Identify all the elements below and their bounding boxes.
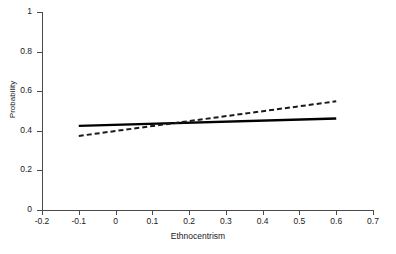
x-tick-label: 0	[96, 216, 136, 226]
y-tick-label: 0	[0, 205, 32, 214]
x-axis-line	[42, 210, 374, 211]
y-tick-label: 1	[0, 7, 32, 16]
x-tick-mark	[373, 211, 374, 215]
series-solid-line	[79, 119, 336, 126]
x-tick-mark	[79, 211, 80, 215]
x-tick-mark	[152, 211, 153, 215]
x-tick-label: 0.4	[243, 216, 283, 226]
x-tick-label: -0.1	[59, 216, 99, 226]
chart-figure: 00.20.40.60.81 -0.2-0.100.10.20.30.40.50…	[0, 0, 396, 254]
x-tick-mark	[116, 211, 117, 215]
x-tick-mark	[42, 211, 43, 215]
y-tick-mark	[37, 170, 42, 171]
x-tick-mark	[189, 211, 190, 215]
x-tick-label: 0.6	[316, 216, 356, 226]
x-tick-mark	[226, 211, 227, 215]
x-tick-label: -0.2	[22, 216, 62, 226]
y-axis-line	[42, 12, 43, 211]
x-tick-label: 0.7	[353, 216, 393, 226]
x-tick-label: 0.1	[132, 216, 172, 226]
y-axis-title: Probability	[8, 60, 17, 140]
y-tick-mark	[37, 91, 42, 92]
x-axis-title: Ethnocentrism	[0, 231, 396, 241]
series-dashed-line	[79, 101, 336, 136]
y-tick-mark	[37, 12, 42, 13]
y-tick-label: 0.2	[0, 165, 32, 174]
x-tick-mark	[263, 211, 264, 215]
x-tick-label: 0.2	[169, 216, 209, 226]
x-tick-mark	[299, 211, 300, 215]
x-tick-label: 0.5	[279, 216, 319, 226]
y-tick-label: 0.8	[0, 47, 32, 56]
x-tick-label: 0.3	[206, 216, 246, 226]
y-tick-mark	[37, 131, 42, 132]
y-tick-mark	[37, 52, 42, 53]
x-tick-mark	[336, 211, 337, 215]
